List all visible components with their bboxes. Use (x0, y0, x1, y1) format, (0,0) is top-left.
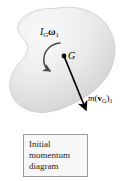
center-of-mass-dot (62, 54, 67, 59)
angular-velocity-symbol: ω (48, 26, 55, 37)
angular-velocity-subscript: 1 (56, 31, 59, 38)
center-of-mass-label: G (68, 51, 75, 61)
initial-momentum-diagram-figure: IGω1 G m(vG)1 Initial momentum diagram (0, 0, 128, 181)
caption-box: Initial momentum diagram (23, 134, 88, 177)
caption-text: Initial momentum diagram (29, 139, 87, 172)
linear-momentum-label: m(vG)1 (88, 94, 112, 104)
angular-momentum-label: IGω1 (40, 27, 59, 39)
momentum-state-subscript: 1 (109, 98, 112, 104)
